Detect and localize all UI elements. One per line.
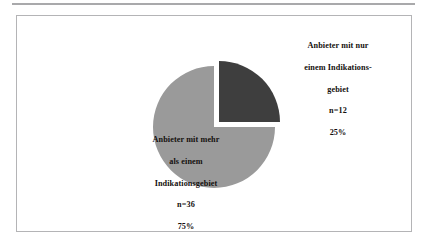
- pie-label-percent: 25%: [275, 128, 401, 139]
- chart-frame: Anbieter mit nur einem Indikations- gebi…: [16, 15, 412, 232]
- pie-label-line: als einem: [117, 157, 255, 168]
- pie-label-percent: 75%: [117, 222, 255, 233]
- pie-label-line: gebiet: [275, 85, 401, 96]
- plot-area: Anbieter mit nur einem Indikations- gebi…: [17, 16, 411, 231]
- pie-label-line: einem Indikations-: [275, 63, 401, 74]
- pie-label-count: n=36: [117, 200, 255, 211]
- pie-label-line: Anbieter mit nur: [275, 41, 401, 52]
- pie-label-line: Anbieter mit mehr: [117, 135, 255, 146]
- pie-label-mehr-als-einem-indikationsgebiet: Anbieter mit mehr als einem Indikationsg…: [117, 124, 255, 244]
- top-horizontal-rule: [12, 3, 415, 5]
- pie-label-nur-einem-indikationsgebiet: Anbieter mit nur einem Indikations- gebi…: [275, 30, 401, 150]
- pie-label-count: n=12: [275, 106, 401, 117]
- pie-slice-nur-einem-indikationsgebiet[interactable]: [219, 61, 280, 122]
- pie-label-line: Indikationsgebiet: [117, 179, 255, 190]
- page-root: Anbieter mit nur einem Indikations- gebi…: [0, 0, 431, 250]
